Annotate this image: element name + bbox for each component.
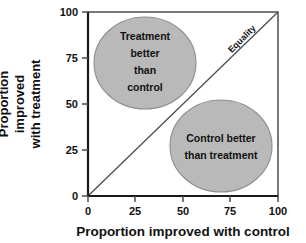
y-axis-title-line-2: improved xyxy=(12,75,27,134)
scatter-chart: Treatment better than control Control be… xyxy=(0,0,306,243)
x-tick-label-75: 75 xyxy=(224,205,236,217)
y-axis-title-group: Proportion improved with treatment xyxy=(0,59,43,150)
x-axis-title: Proportion improved with control xyxy=(76,224,290,239)
y-tick-label-25: 25 xyxy=(66,144,78,156)
treatment-better-label-line-1: Treatment xyxy=(120,30,171,42)
x-tick-label-100: 100 xyxy=(269,205,287,217)
control-better-label-line-1: Control better xyxy=(186,132,255,144)
y-tick-label-50: 50 xyxy=(66,98,78,110)
y-axis-title-line-3: with treatment xyxy=(28,59,43,150)
x-tick-label-50: 50 xyxy=(177,205,189,217)
y-tick-label-75: 75 xyxy=(66,52,78,64)
treatment-better-label-line-2: better xyxy=(130,47,159,59)
chart-figure: Treatment better than control Control be… xyxy=(0,0,306,243)
y-tick-label-0: 0 xyxy=(72,190,78,202)
treatment-better-label-line-4: control xyxy=(127,81,163,93)
control-better-label-line-2: than treatment xyxy=(185,149,258,161)
x-tick-label-0: 0 xyxy=(85,205,91,217)
y-tick-label-100: 100 xyxy=(60,6,78,18)
x-tick-label-25: 25 xyxy=(129,205,141,217)
y-axis-title-line-1: Proportion xyxy=(0,71,11,137)
treatment-better-label-line-3: than xyxy=(134,64,156,76)
control-better-region xyxy=(170,100,272,192)
